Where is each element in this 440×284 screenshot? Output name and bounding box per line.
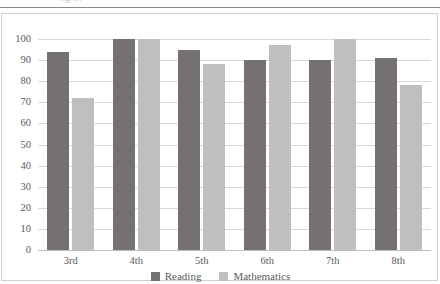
bar-group-8th bbox=[366, 39, 432, 250]
bar-group-6th bbox=[235, 39, 301, 250]
bar-groups bbox=[38, 39, 431, 250]
bar-reading-4th[interactable] bbox=[113, 39, 135, 250]
bar-group-5th bbox=[169, 39, 235, 250]
bar-group-4th bbox=[104, 39, 170, 250]
y-tick-label-10: 10 bbox=[21, 224, 32, 235]
chart-legend: ReadingMathematics bbox=[2, 271, 439, 282]
bar-group-3rd bbox=[38, 39, 104, 250]
y-tick-label-0: 0 bbox=[26, 245, 31, 256]
x-tick-label-3rd: 3rd bbox=[38, 252, 104, 270]
x-tick-label-8th: 8th bbox=[366, 252, 432, 270]
bar-reading-5th[interactable] bbox=[178, 50, 200, 250]
y-tick-label-20: 20 bbox=[21, 203, 32, 214]
bar-mathematics-3rd[interactable] bbox=[72, 98, 94, 250]
y-tick-label-80: 80 bbox=[21, 76, 32, 87]
legend-item-mathematics[interactable]: Mathematics bbox=[219, 271, 290, 282]
bar-mathematics-8th[interactable] bbox=[400, 85, 422, 250]
bar-mathematics-7th[interactable] bbox=[334, 39, 356, 250]
x-tick-label-5th: 5th bbox=[169, 252, 235, 270]
horizontal-rule bbox=[0, 7, 440, 8]
gridline-0 bbox=[38, 250, 431, 251]
bar-reading-3rd[interactable] bbox=[47, 52, 69, 250]
y-axis-tick-labels: 1009080706050403020100 bbox=[2, 39, 35, 250]
legend-swatch-mathematics bbox=[219, 272, 228, 281]
legend-label-mathematics: Mathematics bbox=[233, 271, 290, 282]
y-tick-label-90: 90 bbox=[21, 55, 32, 66]
bar-reading-7th[interactable] bbox=[309, 60, 331, 250]
bar-reading-6th[interactable] bbox=[244, 60, 266, 250]
bar-mathematics-5th[interactable] bbox=[203, 64, 225, 250]
chart-frame: 1009080706050403020100 3rd4th5th6th7th8t… bbox=[1, 13, 438, 281]
x-tick-label-4th: 4th bbox=[104, 252, 170, 270]
x-tick-label-6th: 6th bbox=[235, 252, 301, 270]
bar-mathematics-4th[interactable] bbox=[138, 39, 160, 250]
legend-label-reading: Reading bbox=[165, 271, 202, 282]
bar-group-7th bbox=[300, 39, 366, 250]
bar-mathematics-6th[interactable] bbox=[269, 45, 291, 250]
y-tick-label-70: 70 bbox=[21, 97, 32, 108]
y-tick-label-30: 30 bbox=[21, 181, 32, 192]
y-tick-label-100: 100 bbox=[15, 34, 31, 45]
x-tick-label-7th: 7th bbox=[300, 252, 366, 270]
bar-reading-8th[interactable] bbox=[375, 58, 397, 250]
legend-item-reading[interactable]: Reading bbox=[151, 271, 202, 282]
legend-swatch-reading bbox=[151, 272, 160, 281]
y-tick-label-50: 50 bbox=[21, 139, 32, 150]
y-tick-label-40: 40 bbox=[21, 160, 32, 171]
chart-screenshot: ng ... 1009080706050403020100 3rd4th5th6… bbox=[0, 0, 440, 284]
x-axis-tick-labels: 3rd4th5th6th7th8th bbox=[38, 252, 431, 270]
clipped-caption-remnant: ng ... bbox=[60, 0, 82, 3]
y-tick-label-60: 60 bbox=[21, 118, 32, 129]
plot-area bbox=[38, 39, 431, 250]
